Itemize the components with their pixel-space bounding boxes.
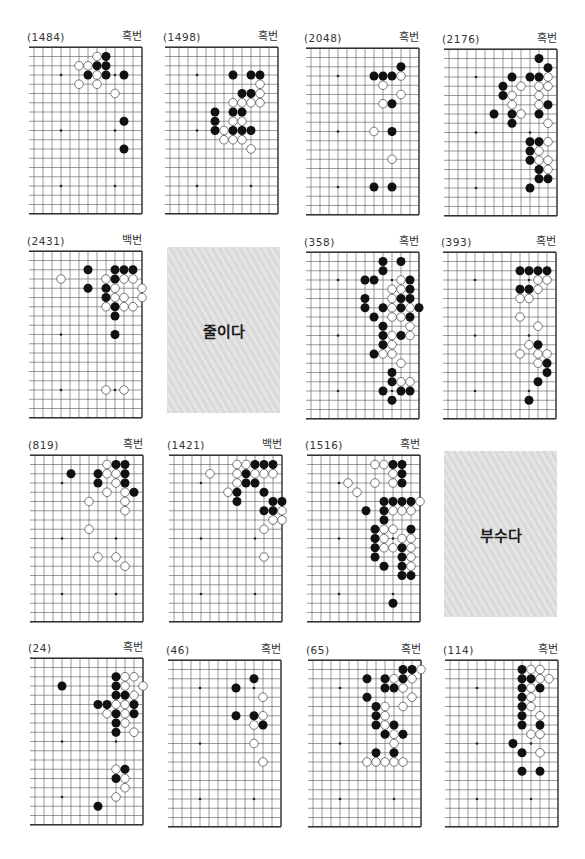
white-stone <box>535 100 544 109</box>
star-point <box>339 687 342 690</box>
white-stone <box>259 693 268 702</box>
black-stone <box>535 110 544 119</box>
word-box-text: 줄이다 <box>203 320 245 341</box>
black-stone <box>278 497 287 506</box>
black-stone <box>535 54 544 63</box>
white-stone <box>75 80 84 89</box>
black-stone <box>388 368 397 377</box>
black-stone <box>397 257 406 266</box>
go-board <box>29 47 142 214</box>
black-stone <box>371 534 380 543</box>
turn-indicator: 백번 <box>122 234 142 248</box>
black-stone <box>388 377 397 386</box>
white-stone <box>353 488 362 497</box>
problem-number: (358) <box>304 235 335 249</box>
white-stone <box>381 702 390 711</box>
white-stone <box>388 285 397 294</box>
white-stone <box>397 276 406 285</box>
problem-2431: (2431) 백번 <box>29 234 142 419</box>
black-stone <box>371 525 380 534</box>
white-stone <box>406 303 415 312</box>
white-stone <box>269 516 278 525</box>
star-point <box>528 390 531 393</box>
white-stone <box>389 469 398 478</box>
black-stone <box>381 684 390 693</box>
black-stone <box>407 497 416 506</box>
white-stone <box>130 691 139 700</box>
star-point <box>199 798 202 801</box>
turn-indicator: 흑번 <box>122 30 142 44</box>
star-point <box>114 185 117 188</box>
black-stone <box>398 543 407 552</box>
white-stone <box>398 506 407 515</box>
white-stone <box>536 711 545 720</box>
white-stone <box>130 672 139 681</box>
star-point <box>337 390 340 393</box>
white-stone <box>251 469 260 478</box>
go-board <box>30 455 143 622</box>
white-stone <box>250 739 259 748</box>
white-stone <box>397 359 406 368</box>
black-stone <box>499 82 508 91</box>
black-stone <box>372 748 381 757</box>
white-stone <box>544 156 553 165</box>
black-stone <box>111 312 120 321</box>
white-stone <box>388 331 397 340</box>
black-stone <box>94 700 103 709</box>
problem-1484: (1484) 흑번 <box>29 30 142 215</box>
black-stone <box>120 265 129 274</box>
black-stone <box>526 156 535 165</box>
problem-358: (358) 흑번 <box>306 235 419 420</box>
black-stone <box>408 665 417 674</box>
black-stone <box>388 127 397 136</box>
black-stone <box>379 266 388 275</box>
star-point <box>196 74 199 77</box>
white-stone <box>238 117 247 126</box>
star-point <box>475 76 478 79</box>
black-stone <box>406 313 415 322</box>
white-stone <box>111 89 120 98</box>
go-board <box>30 658 143 825</box>
black-stone <box>112 691 121 700</box>
black-stone <box>380 497 389 506</box>
white-stone <box>525 340 534 349</box>
star-point <box>392 537 395 540</box>
black-stone <box>518 693 527 702</box>
black-stone <box>211 117 220 126</box>
white-stone <box>536 730 545 739</box>
problem-393: (393) 흑번 <box>443 235 556 420</box>
black-stone <box>242 469 251 478</box>
white-stone <box>138 293 147 302</box>
turn-indicator: 흑번 <box>538 643 558 657</box>
white-stone <box>371 479 380 488</box>
white-stone <box>379 99 388 108</box>
word-box-shrink: 줄이다 <box>167 247 280 413</box>
white-stone <box>129 275 138 284</box>
black-stone <box>370 72 379 81</box>
black-stone <box>525 396 534 405</box>
black-stone <box>121 469 130 478</box>
black-stone <box>242 479 251 488</box>
problem-number: (2176) <box>442 32 480 46</box>
black-stone <box>238 108 247 117</box>
black-stone <box>397 294 406 303</box>
black-stone <box>508 119 517 128</box>
white-stone <box>121 672 130 681</box>
black-stone <box>406 294 415 303</box>
white-stone <box>260 525 269 534</box>
star-point <box>339 742 342 745</box>
star-point <box>529 131 532 134</box>
black-stone <box>536 684 545 693</box>
white-stone <box>75 61 84 70</box>
black-stone <box>544 174 553 183</box>
problem-header: (46) 흑번 <box>168 643 281 657</box>
black-stone <box>251 460 260 469</box>
white-stone <box>103 460 112 469</box>
white-stone <box>256 89 265 98</box>
black-stone <box>415 303 424 312</box>
black-stone <box>121 765 130 774</box>
white-stone <box>120 275 129 284</box>
black-stone <box>398 497 407 506</box>
star-point <box>337 75 340 78</box>
white-stone <box>102 386 111 395</box>
